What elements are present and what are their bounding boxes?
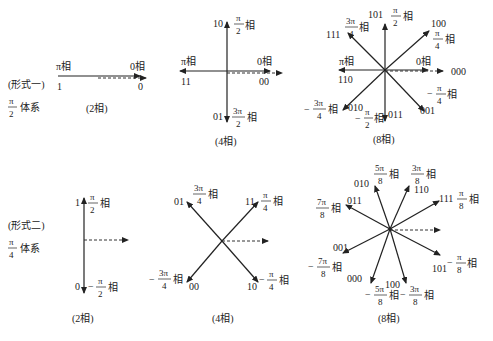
label-text: 011 [388,109,403,120]
label-text: 3π [346,16,356,26]
label-text: 0相 [416,55,431,67]
label-text: 相 [426,168,436,180]
vector-arrow [187,241,222,282]
label-text: 11 [245,196,255,207]
label-text: 相 [173,273,183,285]
row1-two-phase-diagram: π相 1 0相 0 (2相) [56,60,146,115]
label-text: π [457,252,462,262]
label-text: 00 [189,281,199,292]
label-text: 10 [213,18,223,29]
label-text: 010 [348,102,363,113]
row1-system-label: π 2 体系 [8,96,40,119]
label-text: 相 [108,281,118,293]
label-text: 相 [389,168,399,180]
label-text: 0相 [130,60,145,72]
label-text: 3π [194,183,204,193]
label-text: π [236,13,241,23]
label-text: − [447,257,453,268]
label-text: π [269,269,274,279]
vector-arrow [385,70,424,111]
label-text: 相 [424,289,434,301]
label-text: 111 [439,193,453,204]
label-text: 相 [389,289,399,301]
label-text: 相 [403,10,413,22]
label-text: 5π [375,284,385,294]
label-text: 相 [245,19,255,31]
row2-four-phase-diagram: 01 3π 4 相 11 π 4 相 − 3π 4 相 00 10 − π 4 … [149,183,289,325]
row2-system-label: π 4 体系 [8,237,40,260]
label-text: π [437,83,442,93]
label-text: 000 [347,273,362,284]
label-text: − [365,289,371,300]
label-text: 011 [347,195,362,206]
label-text: 10 [247,281,257,292]
caption: (2相) [86,102,108,115]
caption: (8相) [373,133,395,146]
label-text: 0相 [257,55,272,67]
caption: (2相) [72,312,94,325]
label-text: (形式一) [8,78,45,91]
label-text: 110 [414,184,429,195]
label-text: 5π [375,163,385,173]
row2-form-label: (形式二) [8,219,45,232]
label-text: 相 [445,33,455,45]
label-text: 4 [269,282,274,292]
label-text: 相 [469,193,479,205]
label-text: 3π [412,163,422,173]
label-text: π [98,276,103,286]
label-text: 体系 [20,102,40,113]
label-text: 000 [451,66,466,77]
label-text: 8 [378,297,383,307]
label-text: 相 [208,188,218,200]
vector-arrow [390,229,406,283]
label-text: π [435,28,440,38]
label-text: 3π [410,284,420,294]
label-text: 8 [321,269,326,279]
label-text: 2 [98,289,103,299]
row2-eight-phase-diagram: 010 5π 8 相 3π 8 相 110 7π 8 相 011 111 π 8… [308,163,479,325]
label-text: 4 [437,96,442,106]
label-text: π [459,188,464,198]
label-text: 相 [447,88,457,100]
label-text: (形式二) [8,219,45,232]
label-text: π相 [56,60,71,72]
label-text: 相 [359,21,369,33]
label-text: 4 [435,41,440,51]
label-text: 相 [467,257,477,269]
label-text: π相 [181,55,196,67]
label-text: π [365,107,370,117]
label-text: 体系 [20,243,40,254]
vector-arrow [222,241,258,282]
vector-arrow [222,202,258,241]
label-text: 相 [247,111,257,123]
label-text: 3π [159,268,169,278]
caption: (8相) [378,312,400,325]
label-text: 相 [100,197,110,209]
label-text: 相 [374,112,384,124]
label-text: 1 [75,197,80,208]
label-text: 100 [385,279,400,290]
label-text: π [90,192,95,202]
label-text: 相 [328,103,338,115]
label-text: 相 [331,202,341,214]
label-text: 4 [197,196,202,206]
caption: (4相) [215,135,237,148]
vector-arrow [390,186,409,229]
label-text: 1 [57,81,62,92]
label-text: 8 [320,210,325,220]
label-text: 2 [236,26,241,36]
label-text: 相 [332,261,342,273]
row2-two-phase-diagram: 1 π 2 相 0 − π 2 相 (2相) [72,192,128,325]
label-text: 4 [349,29,354,39]
row1-eight-phase-diagram: 101 π 2 相 111 3π 4 相 100 π 4 相 π相 110 0相… [304,5,466,146]
label-text: 2 [236,119,241,129]
label-text: 7π [318,256,328,266]
label-text: 2 [9,109,14,119]
label-text: 8 [378,176,383,186]
label-text: 8 [457,265,462,275]
label-text: 001 [420,105,435,116]
vector-arrow [187,202,222,241]
label-text: π [9,96,14,106]
label-text: − [427,88,433,99]
label-text: π相 [339,55,354,67]
